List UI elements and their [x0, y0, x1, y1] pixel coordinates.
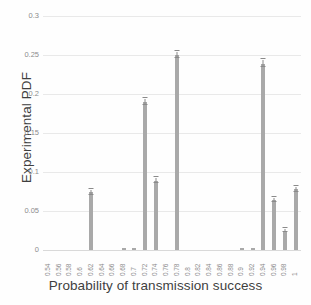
x-tick-label: 0.7 — [130, 250, 137, 276]
bar-slot — [43, 16, 54, 250]
y-tick-label: 0.05 — [5, 206, 39, 215]
error-bar-stem — [155, 178, 156, 183]
bar-series — [43, 16, 301, 250]
y-tick-label: 0.2 — [5, 89, 39, 98]
bar-slot — [269, 16, 280, 250]
bar — [294, 189, 298, 250]
bar-slot — [86, 16, 97, 250]
x-tick-label: 0.56 — [55, 250, 62, 276]
x-tick-label: 0.86 — [216, 250, 223, 276]
x-tick-label: 0.62 — [87, 250, 94, 276]
x-tick-label: 0.72 — [141, 250, 148, 276]
bar-slot — [290, 16, 301, 250]
x-tick-label: 1 — [291, 250, 298, 276]
bar-slot — [140, 16, 151, 250]
plot-area — [43, 16, 301, 250]
bar — [283, 231, 287, 251]
x-tick-label: 0.78 — [173, 250, 180, 276]
error-bar-stem — [263, 60, 264, 66]
y-tick-label: 0.25 — [5, 50, 39, 59]
bar-slot — [65, 16, 76, 250]
x-tick-label: 0.96 — [270, 250, 277, 276]
bar — [261, 64, 265, 250]
y-tick-label: 0.15 — [5, 128, 39, 137]
x-tick-label: 0.66 — [108, 250, 115, 276]
y-tick-label: 0.1 — [5, 167, 39, 176]
x-tick-label: 0.82 — [194, 250, 201, 276]
bar-slot — [75, 16, 86, 250]
bar-slot — [151, 16, 162, 250]
y-tick-label: 0 — [5, 245, 39, 254]
x-tick-label: 0.84 — [205, 250, 212, 276]
bar-slot — [183, 16, 194, 250]
bar-slot — [54, 16, 65, 250]
x-tick-label: 0.58 — [65, 250, 72, 276]
x-tick-label: 0.76 — [162, 250, 169, 276]
bar-slot — [118, 16, 129, 250]
bar-slot — [258, 16, 269, 250]
bar-slot — [129, 16, 140, 250]
bar-slot — [280, 16, 291, 250]
bar-slot — [237, 16, 248, 250]
error-bar-stem — [91, 190, 92, 195]
x-tick-label: 0.64 — [98, 250, 105, 276]
error-bar-stem — [295, 187, 296, 192]
x-tick-label: 0.9 — [237, 250, 244, 276]
bar — [272, 200, 276, 250]
x-tick-label: 0.6 — [76, 250, 83, 276]
bar-slot — [215, 16, 226, 250]
bar-slot — [194, 16, 205, 250]
bar-slot — [161, 16, 172, 250]
y-tick-label: 0.3 — [5, 11, 39, 20]
bar — [154, 181, 158, 250]
bar-slot — [226, 16, 237, 250]
error-bar-stem — [284, 229, 285, 232]
bar-slot — [172, 16, 183, 250]
x-tick-label: 0.74 — [151, 250, 158, 276]
bar-chart: Experimental PDF 00.050.10.150.20.250.3 … — [0, 0, 311, 305]
x-axis-ticks: 0.540.560.580.60.620.640.660.680.70.720.… — [43, 250, 301, 276]
x-tick-label: 0.8 — [184, 250, 191, 276]
bar-slot — [97, 16, 108, 250]
x-tick-label: 0.94 — [259, 250, 266, 276]
x-tick-label: 0.92 — [248, 250, 255, 276]
bar-slot — [204, 16, 215, 250]
bar — [175, 55, 179, 250]
bar — [89, 192, 93, 250]
bar-slot — [108, 16, 119, 250]
x-tick-label: 0.68 — [119, 250, 126, 276]
x-tick-label: 0.54 — [44, 250, 51, 276]
bar-slot — [247, 16, 258, 250]
x-axis-title: Probability of transmission success — [0, 278, 311, 293]
error-bar-stem — [177, 52, 178, 58]
error-bar-stem — [274, 198, 275, 203]
x-tick-label: 0.98 — [280, 250, 287, 276]
error-bar-stem — [145, 99, 146, 105]
bar — [143, 102, 147, 250]
x-tick-label: 0.88 — [227, 250, 234, 276]
